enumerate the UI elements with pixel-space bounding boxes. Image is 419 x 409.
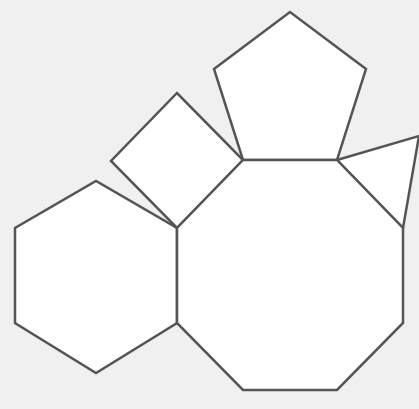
pentagon-shape — [214, 12, 366, 160]
polygon-diagram — [0, 0, 419, 409]
octagon-shape — [177, 160, 403, 390]
hexagon-shape — [15, 181, 177, 373]
